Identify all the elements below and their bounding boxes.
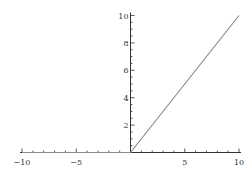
y-tick-label: 2	[123, 121, 128, 130]
y-tick-label: 6	[123, 66, 128, 75]
y-tick-label: 4	[123, 94, 128, 103]
line-chart: −10−5510246810	[0, 0, 251, 181]
x-tick-label: 10	[234, 158, 244, 167]
axes	[20, 13, 241, 153]
y-tick-label: 10	[118, 12, 128, 21]
tick-labels: −10−5510246810	[14, 12, 245, 167]
x-tick-label: −5	[70, 158, 82, 167]
x-tick-label: −10	[14, 158, 31, 167]
x-tick-label: 5	[182, 158, 187, 167]
y-tick-label: 8	[123, 39, 128, 48]
